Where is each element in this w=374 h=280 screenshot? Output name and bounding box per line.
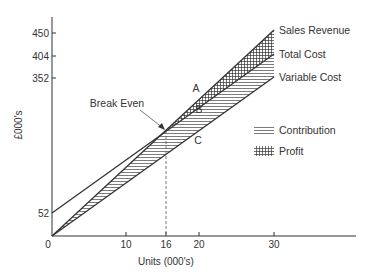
- y-tick-label-352: 352: [32, 73, 49, 84]
- y-axis-title: £000's: [13, 110, 24, 139]
- origin-label: 0: [45, 239, 51, 250]
- y-tick-label-450: 450: [32, 28, 49, 39]
- break-even-arrow: [140, 110, 163, 128]
- x-axis-title: Units (000's): [138, 256, 194, 267]
- variable-cost-line: [52, 77, 274, 236]
- total-cost-line: [52, 54, 274, 213]
- variable-cost-label: Variable Cost: [279, 71, 341, 83]
- legend-profit-swatch: [254, 146, 274, 156]
- x-tick-label-20: 20: [193, 239, 205, 250]
- break-even-chart: 450 404 352 52 0 10 16 20 30 Units (000'…: [0, 0, 374, 280]
- x-tick-label-16: 16: [160, 239, 172, 250]
- point-a-label: A: [192, 82, 199, 94]
- break-even-label: Break Even: [90, 97, 144, 109]
- y-tick-label-52: 52: [38, 208, 50, 219]
- x-tick-label-10: 10: [120, 239, 132, 250]
- y-tick-label-404: 404: [32, 51, 49, 62]
- total-cost-label: Total Cost: [279, 48, 326, 60]
- arrow-head-icon: [158, 123, 165, 130]
- legend-profit-label: Profit: [279, 145, 304, 157]
- legend-contribution-label: Contribution: [279, 124, 336, 136]
- point-c-label: C: [194, 134, 202, 146]
- point-b-label: B: [195, 103, 202, 115]
- sales-revenue-label: Sales Revenue: [279, 24, 350, 36]
- x-tick-label-30: 30: [268, 239, 280, 250]
- legend-contribution-swatch: [254, 125, 274, 135]
